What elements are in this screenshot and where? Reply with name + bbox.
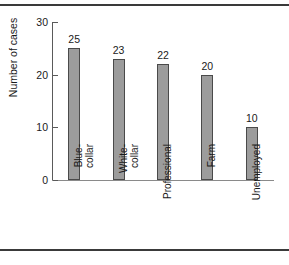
top-divider-rule [0, 4, 289, 6]
bar-value-label: 22 [141, 50, 185, 61]
x-tick-label: Farm [207, 144, 218, 222]
x-tick-label: White- collar [119, 144, 140, 222]
y-tick-label: 10 [8, 122, 48, 132]
x-tick-label: Blue- collar [74, 144, 95, 222]
x-tick: White- collar [96, 183, 140, 263]
bar-value-label: 20 [185, 61, 229, 72]
x-tick: Blue- collar [52, 183, 96, 263]
bar-value-label: 25 [52, 34, 96, 45]
x-tick-label: Unemployed [252, 144, 263, 222]
x-tick: Professional [141, 183, 185, 263]
y-tick-mark [53, 180, 58, 181]
y-tick-label: 20 [8, 70, 48, 80]
bar-chart-figure: Number of cases 0102030 2523222010 Blue-… [0, 0, 289, 265]
y-tick-label: 30 [8, 17, 48, 27]
y-tick-label: 0 [8, 175, 48, 185]
x-tick-label: Professional [163, 144, 174, 222]
bar-value-label: 10 [230, 113, 274, 124]
bar-value-label: 23 [97, 45, 141, 56]
x-tick: Unemployed [230, 183, 274, 263]
x-tick: Farm [185, 183, 229, 263]
